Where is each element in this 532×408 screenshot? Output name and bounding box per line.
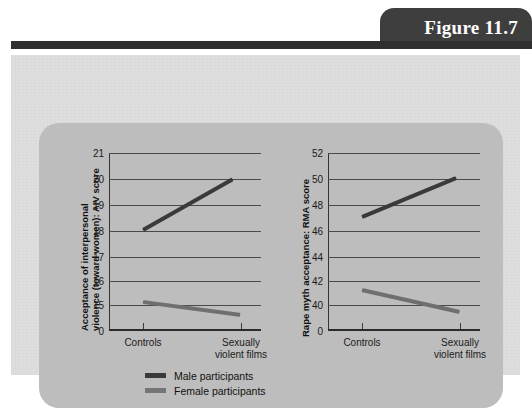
chart-aiv-xlabel-films-line2: violent films [215,349,267,360]
chart-rma-ytick-52: 52 [312,148,323,159]
chart-rma-ytick-46: 46 [312,226,323,237]
chart-rma-ytick-42: 42 [312,276,323,287]
figure-number-label: Figure 11.7 [424,17,518,39]
chart-aiv-frame: 21 20 19 18 17 16 15 0 [109,153,261,331]
figure-outer-panel: Acceptance of interpersonal violence (to… [11,55,520,375]
chart-aiv-ytick-17: 17 [93,252,104,263]
header-rule [11,41,532,49]
charts-panel: Acceptance of interpersonal violence (to… [39,123,503,408]
chart-rma-xtick-films [460,323,461,329]
chart-aiv-xlabel-controls: Controls [108,337,178,349]
chart-aiv-plot-area: 21 20 19 18 17 16 15 0 [109,153,261,331]
gridline [328,205,480,206]
chart-legend: Male participants Female participants [145,368,365,398]
chart-aiv-ytick-19: 19 [93,200,104,211]
gridline [109,179,261,180]
chart-rma-series-male [361,177,457,220]
chart-rma-ytick-50: 50 [312,174,323,185]
legend-swatch-female-icon [145,388,166,393]
chart-aiv-ytick-15: 15 [93,300,104,311]
chart-rma: Rape myth acceptance: RMA score [284,145,496,360]
legend-item-male: Male participants [145,368,365,383]
chart-rma-xlabel-films-line1: Sexually [441,337,479,348]
chart-aiv-ytick-18: 18 [93,226,104,237]
legend-item-female: Female participants [145,383,365,398]
gridline [109,153,261,154]
gridline [328,257,480,258]
chart-aiv-xlabel-films: Sexually violent films [206,337,276,360]
gridline [328,153,480,154]
chart-rma-xtick-controls [362,323,363,329]
chart-aiv-x-axis [109,329,261,331]
chart-rma-ytick-0: 0 [317,326,323,337]
chart-aiv-series-female [143,300,241,317]
chart-aiv: Acceptance of interpersonal violence (to… [65,145,277,360]
gridline [328,281,480,282]
gridline [328,231,480,232]
gridline [328,305,480,306]
chart-rma-ytick-48: 48 [312,200,323,211]
legend-swatch-male-icon [145,373,166,378]
chart-aiv-ylabel-line1: Acceptance of interpersonal [79,203,90,331]
chart-aiv-ytick-0: 0 [98,326,104,337]
chart-aiv-xtick-controls [143,323,144,329]
chart-rma-xlabel-controls: Controls [327,337,397,349]
gridline [109,281,261,282]
legend-label-female: Female participants [174,385,266,397]
chart-aiv-ytick-16: 16 [93,276,104,287]
legend-label-male: Male participants [174,370,253,382]
gridline [109,231,261,232]
chart-rma-plot-area: 52 50 48 46 44 42 40 0 [328,153,480,331]
chart-rma-frame: 52 50 48 46 44 42 40 0 [328,153,480,331]
chart-rma-ylabel: Rape myth acceptance: RMA score [300,179,311,337]
chart-aiv-xlabel-films-line1: Sexually [222,337,260,348]
chart-aiv-xtick-films [241,323,242,329]
gridline [328,179,480,180]
gridline [109,257,261,258]
chart-rma-series-female [362,288,460,314]
chart-rma-ytick-44: 44 [312,252,323,263]
chart-rma-xlabel-films-line2: violent films [434,349,486,360]
chart-rma-x-axis [328,329,480,331]
chart-aiv-ytick-21: 21 [93,148,104,159]
chart-aiv-ytick-20: 20 [93,174,104,185]
chart-rma-xlabel-films: Sexually violent films [425,337,495,360]
chart-rma-ytick-40: 40 [312,300,323,311]
